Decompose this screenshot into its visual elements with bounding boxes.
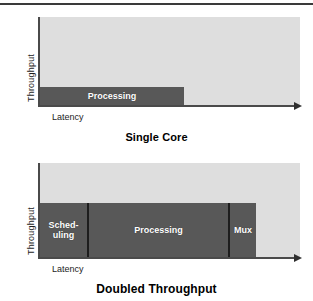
bar-processing: Processing — [40, 87, 184, 105]
y-axis-label: Throughput — [26, 54, 36, 102]
x-axis-line — [38, 257, 296, 259]
chart-panel-single-core: Processing Throughput Latency Single Cor… — [0, 0, 313, 150]
y-axis-label: Throughput — [26, 207, 36, 255]
bar-segment-label-mux: Mux — [234, 225, 252, 235]
x-axis-line — [38, 105, 296, 107]
panel-caption-single-core: Single Core — [0, 131, 313, 143]
bar-segment-label-processing: Processing — [40, 91, 184, 101]
x-axis-arrowhead-icon — [294, 102, 302, 110]
bar-stacked-pipeline: Sched- uling Processing Mux — [40, 203, 256, 257]
x-axis-arrowhead-icon — [294, 254, 302, 262]
bar-segment-label-processing: Processing — [134, 225, 183, 235]
chart-panel-doubled-throughput: Sched- uling Processing Mux Throughput L… — [0, 155, 313, 301]
figure-root: Processing Throughput Latency Single Cor… — [0, 0, 313, 301]
bar-segment-scheduling: Sched- uling — [40, 203, 87, 257]
bar-segment-label-scheduling: Sched- uling — [48, 220, 78, 240]
x-axis-label: Latency — [52, 112, 84, 122]
panel-caption-doubled-throughput: Doubled Throughput — [0, 282, 313, 296]
bar-segment-processing: Processing — [87, 203, 228, 257]
bar-segment-mux: Mux — [228, 203, 256, 257]
x-axis-label: Latency — [52, 264, 84, 274]
